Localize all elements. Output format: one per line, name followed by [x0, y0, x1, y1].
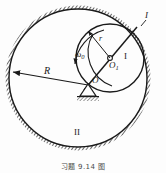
omega-subscript: 0 [81, 53, 84, 60]
label-pivot-o: O [92, 76, 99, 85]
label-radius-R: R [44, 66, 50, 76]
label-radius-r: r [99, 35, 102, 43]
gear-mechanism-drawing [0, 0, 166, 173]
label-gear-one: I [124, 52, 127, 61]
figure-container: R ω0 O1 O r I II I 习题 9.14 图 [0, 0, 166, 173]
figure-caption: 习题 9.14 图 [0, 161, 166, 171]
ring-label-leader [141, 20, 146, 26]
o1-subscript: 1 [116, 64, 119, 71]
label-center-o1: O1 [109, 61, 119, 71]
label-gear-two: II [74, 128, 80, 137]
label-angular-velocity: ω0 [75, 50, 85, 60]
label-ring-marker: I [145, 11, 148, 20]
